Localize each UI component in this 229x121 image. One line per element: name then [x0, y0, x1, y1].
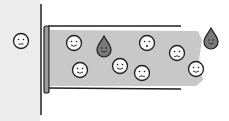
- tube-illustration: [0, 0, 229, 121]
- smiley-face-icon: [113, 59, 128, 74]
- smiley-face-icon: [67, 36, 82, 51]
- drop-icon: [204, 28, 218, 49]
- smiley-face-icon: [135, 66, 150, 81]
- smiley-face-icon: [140, 36, 155, 51]
- smiley-face-icon: [170, 46, 185, 61]
- outside-panel: [0, 0, 40, 121]
- tube-bottom-wall: [48, 88, 181, 89]
- tube-flange: [44, 26, 49, 93]
- smiley-face-icon: [14, 34, 29, 49]
- smiley-face-icon: [73, 63, 88, 78]
- smiley-face-icon: [189, 62, 204, 77]
